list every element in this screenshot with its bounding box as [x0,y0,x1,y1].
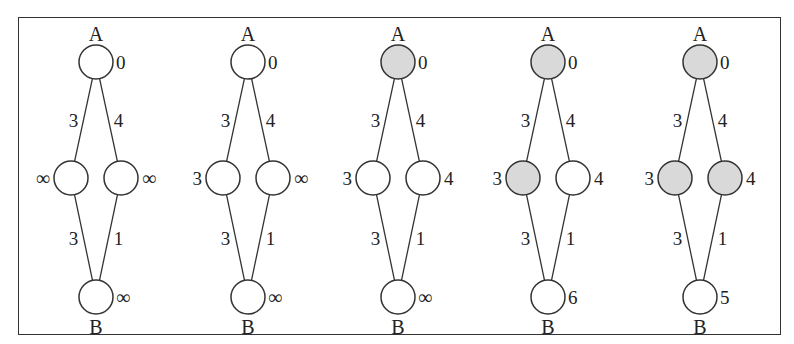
node-a-label: A [693,23,708,45]
edge-weight: 3 [673,110,683,131]
edge-weight: 1 [114,228,124,249]
panel-2: 3431AB03∞∞ [193,23,309,338]
node-a-distance: 0 [116,52,126,73]
node-b [531,280,565,314]
node-b-distance: ∞ [116,286,130,308]
node-right-distance: ∞ [142,167,156,189]
node-r [104,161,138,195]
edge-weight: 4 [718,110,728,131]
node-b [381,280,415,314]
node-a-distance: 0 [720,52,730,73]
node-a-distance: 0 [568,52,578,73]
node-b-label: B [693,316,706,338]
panel-1: 3431AB0∞∞∞ [36,23,157,338]
edge-weight: 1 [566,228,576,249]
node-b-distance: 6 [568,287,578,308]
edge-weight: 4 [114,110,124,131]
edge-weight: 3 [221,228,231,249]
node-left-distance: 3 [343,168,353,189]
edge-weight: 3 [521,228,531,249]
panel-4: 3431AB0346 [493,23,605,338]
node-a-label: A [391,23,406,45]
node-l [54,161,88,195]
edge-weight: 1 [718,228,728,249]
node-left-distance: 3 [193,168,203,189]
edge-weight: 1 [416,228,426,249]
node-right-distance: 4 [746,168,756,189]
node-a [79,45,113,79]
node-b-distance: ∞ [418,286,432,308]
node-b [683,280,717,314]
node-a-label: A [241,23,256,45]
edge-weight: 4 [416,110,426,131]
node-l [356,161,390,195]
node-a-label: A [89,23,104,45]
node-a-distance: 0 [418,52,428,73]
node-right-distance: ∞ [294,167,308,189]
node-r [256,161,290,195]
node-b-distance: ∞ [268,286,282,308]
node-b-label: B [541,316,554,338]
node-a-distance: 0 [268,52,278,73]
node-b [79,280,113,314]
dijkstra-diagram: 3431AB0∞∞∞3431AB03∞∞3431AB034∞3431AB0346… [0,0,794,344]
node-a-visited [531,45,565,79]
edge-weight: 3 [69,228,79,249]
node-left-distance: 3 [493,168,503,189]
node-r [406,161,440,195]
edge-weight: 3 [69,110,79,131]
node-a-visited [381,45,415,79]
node-r [556,161,590,195]
node-b-label: B [89,316,102,338]
panel-5: 3431AB0345 [645,23,757,338]
node-b-label: B [391,316,404,338]
edge-weight: 3 [673,228,683,249]
edge-weight: 3 [371,110,381,131]
node-l-visited [506,161,540,195]
node-a-label: A [541,23,556,45]
node-b-distance: 5 [720,287,730,308]
node-b [231,280,265,314]
node-a-visited [683,45,717,79]
node-left-distance: ∞ [36,167,50,189]
node-a [231,45,265,79]
edge-weight: 3 [221,110,231,131]
node-l [206,161,240,195]
node-l-visited [658,161,692,195]
edge-weight: 4 [566,110,576,131]
edge-weight: 3 [371,228,381,249]
edge-weight: 4 [266,110,276,131]
node-b-label: B [241,316,254,338]
node-right-distance: 4 [594,168,604,189]
edge-weight: 3 [521,110,531,131]
node-right-distance: 4 [444,168,454,189]
edge-weight: 1 [266,228,276,249]
node-left-distance: 3 [645,168,655,189]
panel-3: 3431AB034∞ [343,23,455,338]
node-r-visited [708,161,742,195]
